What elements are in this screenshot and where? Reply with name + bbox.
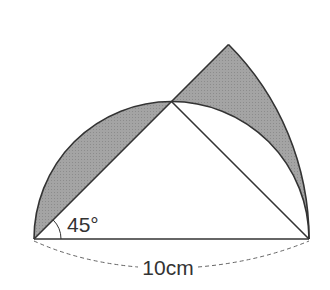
geometry-figure: 45° 10cm	[0, 0, 330, 290]
angle-arc	[53, 220, 61, 239]
length-label: 10cm	[142, 256, 193, 279]
chord-cb	[172, 102, 310, 240]
sector-radius	[34, 45, 229, 240]
shaded-right-region	[172, 45, 310, 240]
angle-label: 45°	[67, 213, 99, 236]
dimension-arc-right	[198, 241, 309, 267]
dimension-arc-left	[34, 241, 138, 267]
